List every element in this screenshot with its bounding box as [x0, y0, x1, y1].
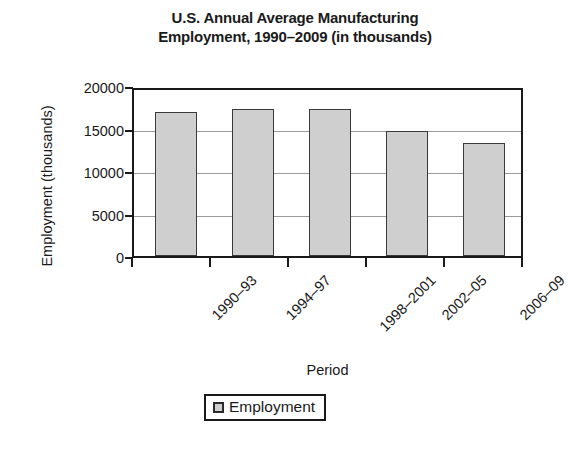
bar-1998-2001[interactable] — [309, 109, 351, 256]
bar-1994-97[interactable] — [232, 109, 274, 256]
x-tick-mark-0 — [131, 258, 133, 267]
plot-area — [132, 88, 523, 258]
y-axis-tick-labels: 20000 15000 10000 5000 0 — [48, 88, 124, 258]
x-tick-label-1994-97: 1994–97 — [283, 272, 334, 323]
x-tick-label-1990-93: 1990–93 — [209, 272, 260, 323]
chart-title: U.S. Annual Average Manufacturing Employ… — [60, 8, 530, 46]
y-tick-label-0: 0 — [54, 250, 124, 266]
x-tick-mark-4 — [443, 258, 445, 267]
x-axis-title: Period — [132, 362, 523, 378]
bar-2002-05[interactable] — [386, 131, 428, 256]
y-tick-label-20000: 20000 — [54, 80, 124, 96]
y-tick-label-5000: 5000 — [54, 208, 124, 224]
chart-title-line-1: U.S. Annual Average Manufacturing — [60, 8, 530, 27]
chart-title-line-2: Employment, 1990–2009 (in thousands) — [60, 27, 530, 46]
bar-1990-93[interactable] — [155, 112, 197, 257]
x-tick-mark-3 — [365, 258, 367, 267]
chart-legend: Employment — [204, 394, 326, 421]
x-tick-mark-1 — [209, 258, 211, 267]
legend-swatch-employment — [213, 402, 224, 413]
y-tick-label-15000: 15000 — [54, 123, 124, 139]
bars-layer — [134, 90, 521, 256]
x-tick-mark-2 — [287, 258, 289, 267]
y-tick-label-10000: 10000 — [54, 165, 124, 181]
x-tick-mark-5 — [521, 258, 523, 267]
legend-label-employment: Employment — [229, 398, 315, 416]
x-tick-label-2002-05: 2002–05 — [439, 272, 490, 323]
x-tick-label-1998-2001: 1998–2001 — [376, 272, 439, 335]
bar-2006-09[interactable] — [463, 143, 505, 256]
x-tick-label-2006-09: 2006–09 — [517, 272, 568, 323]
